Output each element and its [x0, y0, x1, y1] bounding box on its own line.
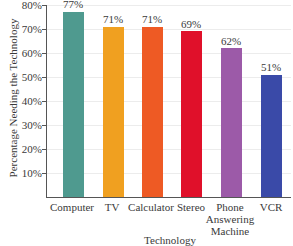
y-tick-10: 10%: [0, 167, 42, 179]
y-tick-80: 80%: [0, 0, 42, 11]
bar-calculator: [142, 27, 163, 197]
y-tick-30: 30%: [0, 119, 42, 131]
y-tick-70: 70%: [0, 23, 42, 35]
bar-computer: [63, 12, 84, 197]
plot-area: 77% 71% 71% 69% 62% 51%: [46, 5, 291, 198]
value-label-vcr: 51%: [251, 61, 291, 73]
bar-vcr: [261, 75, 282, 197]
value-label-tv: 71%: [93, 13, 133, 25]
value-label-computer: 77%: [53, 0, 93, 10]
x-axis-label: Technology: [120, 234, 220, 246]
y-tick-60: 60%: [0, 47, 42, 59]
value-label-phone: 62%: [211, 35, 251, 47]
x-tick-vcr: VCR: [239, 201, 293, 213]
y-tick-mark: [42, 29, 47, 30]
y-tick-20: 20%: [0, 143, 42, 155]
y-tick-mark: [42, 125, 47, 126]
y-tick-mark: [42, 173, 47, 174]
y-tick-40: 40%: [0, 95, 42, 107]
bar-chart: Percentage Needing the Technology 80% 70…: [0, 0, 293, 246]
bar-phone-answering-machine: [221, 48, 242, 197]
value-label-calculator: 71%: [132, 13, 172, 25]
bar-tv: [103, 27, 124, 197]
y-tick-mark: [42, 149, 47, 150]
y-tick-50: 50%: [0, 71, 42, 83]
bar-stereo: [181, 31, 202, 197]
y-tick-mark: [42, 5, 47, 6]
y-tick-mark: [42, 53, 47, 54]
value-label-stereo: 69%: [171, 18, 211, 30]
y-tick-mark: [42, 77, 47, 78]
y-tick-mark: [42, 101, 47, 102]
